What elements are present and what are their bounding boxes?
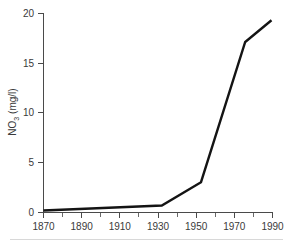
y-tick-label-20: 20: [23, 8, 35, 19]
chart-container: 0 5 10 15 20 1870 1890: [0, 0, 293, 243]
y-tick-label-5: 5: [28, 157, 34, 168]
x-tick-label-1950: 1950: [185, 221, 208, 232]
y-axis-ticks: [38, 13, 44, 212]
series-line-no3: [44, 20, 272, 210]
y-tick-label-15: 15: [23, 58, 35, 69]
x-tick-label-1930: 1930: [147, 221, 170, 232]
y-tick-label-10: 10: [23, 107, 35, 118]
x-tick-labels: 1870 1890 1910 1930 1950 1970 1990: [32, 221, 284, 232]
x-axis-major-ticks: [44, 213, 273, 219]
y-axis-title-text: NO3 (mg/l): [7, 88, 20, 135]
y-axis-title-main: NO: [7, 120, 18, 135]
y-tick-labels: 0 5 10 15 20: [23, 8, 35, 218]
x-tick-label-1910: 1910: [109, 221, 132, 232]
x-tick-label-1890: 1890: [71, 221, 94, 232]
y-tick-label-0: 0: [28, 207, 34, 218]
x-tick-label-1870: 1870: [32, 221, 55, 232]
y-axis-title: NO3 (mg/l): [7, 88, 20, 135]
x-tick-label-1970: 1970: [223, 221, 246, 232]
line-chart: 0 5 10 15 20 1870 1890: [0, 0, 293, 243]
y-axis-title-unit-text: (mg/l): [7, 88, 18, 114]
x-tick-label-1990: 1990: [261, 221, 284, 232]
